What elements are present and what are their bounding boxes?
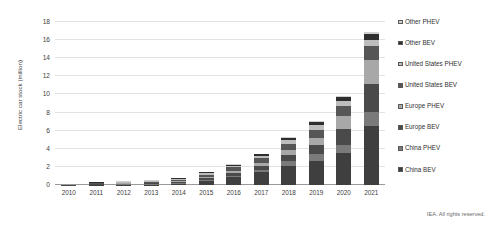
- y-axis-title: Electric car stock (million): [13, 20, 25, 170]
- bar-segment: [89, 185, 104, 186]
- legend-label: United States BEV: [405, 82, 457, 88]
- legend-item[interactable]: United States PHEV: [398, 60, 494, 68]
- bar-column: [144, 180, 159, 185]
- electric-car-stock-chart: Electric car stock (million) 02468101214…: [0, 0, 499, 229]
- legend-swatch-icon: [398, 62, 403, 67]
- legend-item[interactable]: Europe PHEV: [398, 102, 494, 110]
- bar-segment: [309, 130, 324, 139]
- bar-segment: [61, 185, 76, 186]
- bar-column: [281, 137, 296, 185]
- y-tick-label: 10: [43, 90, 50, 97]
- x-tick-label: 2014: [172, 189, 186, 196]
- bar-segment: [309, 161, 324, 185]
- bar-column: [309, 121, 324, 185]
- y-tick-label: 18: [43, 18, 50, 25]
- legend-swatch-icon: [398, 146, 403, 151]
- bar-segment: [336, 116, 351, 129]
- y-tick-label: 6: [46, 126, 50, 133]
- x-tick-label: 2011: [89, 189, 103, 196]
- legend-swatch-icon: [398, 41, 403, 46]
- legend-item[interactable]: China PHEV: [398, 145, 494, 153]
- bar-segment: [336, 106, 351, 116]
- x-tick-label: 2016: [227, 189, 241, 196]
- bar-column: [226, 164, 241, 185]
- legend-item[interactable]: Other BEV: [398, 39, 494, 47]
- legend-label: Other PHEV: [405, 19, 440, 25]
- x-tick-label: 2019: [309, 189, 323, 196]
- bar-segment: [116, 185, 131, 186]
- legend-swatch-icon: [398, 167, 403, 172]
- legend-item[interactable]: United States BEV: [398, 81, 494, 89]
- bar-column: [199, 172, 214, 185]
- y-axis-title-label: Electric car stock (million): [16, 60, 23, 130]
- y-tick-label: 0: [46, 181, 50, 188]
- y-tick-label: 2: [46, 162, 50, 169]
- bar-column: [336, 96, 351, 185]
- x-tick-label: 2020: [337, 189, 351, 196]
- x-tick-label: 2015: [199, 189, 213, 196]
- bar-segment: [364, 46, 379, 60]
- bar-segment: [309, 145, 324, 154]
- attribution-text: IEA. All rights reserved.: [427, 211, 485, 217]
- legend-item[interactable]: China BEV: [398, 166, 494, 174]
- bar-segment: [226, 177, 241, 185]
- bar-segment: [281, 166, 296, 185]
- bar-segment: [336, 129, 351, 145]
- bar-segment: [309, 138, 324, 145]
- chart-legend: Other PHEVOther BEVUnited States PHEVUni…: [398, 18, 494, 187]
- x-tick-label: 2010: [62, 189, 76, 196]
- y-tick-label: 12: [43, 72, 50, 79]
- bar-segment: [364, 126, 379, 185]
- legend-swatch-icon: [398, 125, 403, 130]
- y-tick-label: 4: [46, 144, 50, 151]
- y-tick-label: 8: [46, 108, 50, 115]
- legend-swatch-icon: [398, 20, 403, 25]
- legend-label: United States PHEV: [405, 61, 462, 67]
- bar-segment: [364, 60, 379, 84]
- legend-swatch-icon: [398, 104, 403, 109]
- legend-swatch-icon: [398, 83, 403, 88]
- x-tick-label: 2021: [364, 189, 378, 196]
- legend-label: Europe PHEV: [405, 103, 444, 109]
- bar-segment: [336, 153, 351, 185]
- bar-segment: [364, 84, 379, 112]
- plot-area: 024681012141618 201020112012201320142015…: [55, 22, 385, 185]
- bar-column: [116, 181, 131, 185]
- bar-segment: [364, 112, 379, 126]
- bar-series-group: [55, 22, 385, 185]
- x-tick-label: 2013: [144, 189, 158, 196]
- legend-item[interactable]: Other PHEV: [398, 18, 494, 26]
- bar-column: [364, 32, 379, 185]
- bar-column: [254, 154, 269, 185]
- bar-segment: [254, 172, 269, 185]
- x-tick-label: 2017: [254, 189, 268, 196]
- bar-segment: [144, 185, 159, 186]
- legend-label: China BEV: [405, 167, 436, 173]
- bar-segment: [281, 144, 296, 151]
- bar-column: [61, 185, 76, 186]
- bar-column: [171, 178, 186, 185]
- legend-label: China PHEV: [405, 145, 440, 151]
- bar-segment: [199, 181, 214, 185]
- x-tick-label: 2012: [117, 189, 131, 196]
- bar-segment: [171, 184, 186, 185]
- legend-label: Europe BEV: [405, 124, 440, 130]
- bar-segment: [336, 145, 351, 153]
- x-tick-label: 2018: [282, 189, 296, 196]
- y-tick-label: 14: [43, 54, 50, 61]
- legend-item[interactable]: Europe BEV: [398, 123, 494, 131]
- legend-label: Other BEV: [405, 40, 435, 46]
- bar-column: [89, 182, 104, 185]
- y-tick-label: 16: [43, 36, 50, 43]
